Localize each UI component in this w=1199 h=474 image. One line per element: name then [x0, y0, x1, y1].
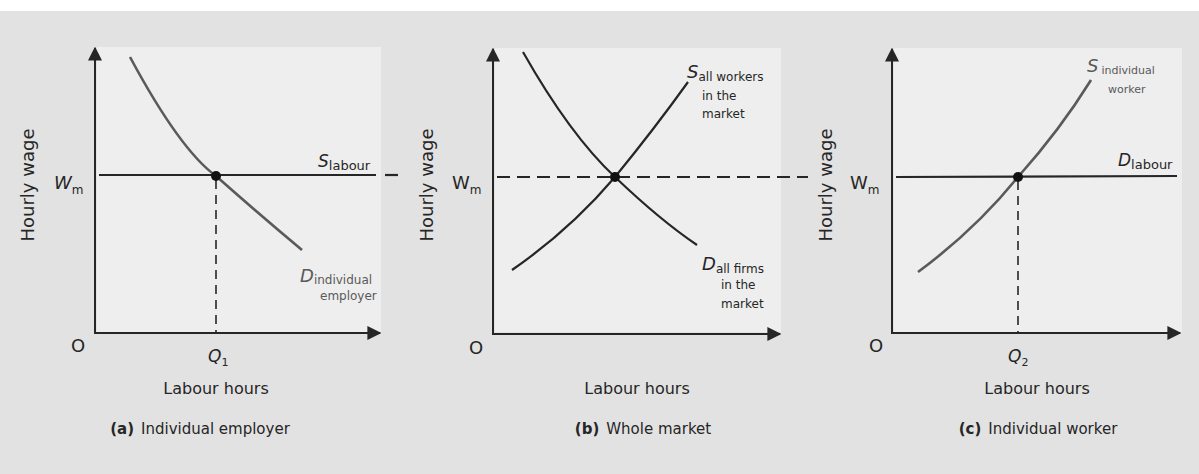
- supply-all-workers-label-line2: in the: [702, 89, 736, 103]
- y-axis-label: Hourly wage: [17, 129, 38, 242]
- y-axis-label: Hourly wage: [416, 129, 437, 242]
- origin-label: O: [869, 335, 883, 356]
- demand-individual-employer-label-line2: employer: [320, 289, 377, 303]
- equilibrium-point: [610, 172, 620, 182]
- q2-label: Q2: [1008, 346, 1028, 369]
- supply-all-workers-label-line3: market: [702, 107, 745, 121]
- demand-all-firms-label-line2: in the: [721, 278, 755, 292]
- x-axis-label: Labour hours: [163, 379, 268, 398]
- q1-label: Q1: [208, 346, 228, 369]
- wage-label: Wm: [452, 172, 482, 197]
- panel-c-caption: (c)Individual worker: [959, 420, 1118, 438]
- origin-label: O: [71, 335, 85, 356]
- labour-market-diagram: Hourly wage Wm O Q1 Labour hours Slabour…: [0, 0, 1199, 474]
- demand-labour-line: [896, 176, 1177, 177]
- x-axis-label: Labour hours: [584, 379, 689, 398]
- panel-b-whole-market: Hourly wage Wm O Labour hours Sall worke…: [416, 48, 808, 438]
- supply-individual-worker-label-line2: worker: [1108, 83, 1146, 96]
- demand-all-firms-label-line3: market: [721, 297, 764, 311]
- panel-a-individual-employer: Hourly wage Wm O Q1 Labour hours Slabour…: [17, 47, 398, 438]
- wage-label: Wm: [850, 172, 880, 197]
- panel-c-individual-worker: Hourly wage Wm O Q2 Labour hours Sindivi…: [815, 48, 1182, 438]
- equilibrium-point: [211, 171, 221, 181]
- wage-label: Wm: [54, 172, 84, 197]
- panel-a-caption: (a)Individual employer: [110, 420, 290, 438]
- equilibrium-point: [1013, 172, 1023, 182]
- origin-label: O: [469, 337, 483, 358]
- panel-b-caption: (b)Whole market: [575, 420, 711, 438]
- y-axis-label: Hourly wage: [815, 129, 836, 242]
- x-axis-label: Labour hours: [984, 379, 1089, 398]
